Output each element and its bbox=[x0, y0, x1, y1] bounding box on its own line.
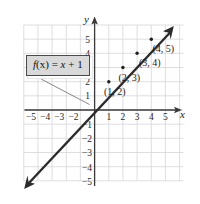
annotation-leader-line bbox=[41, 79, 90, 105]
point-label-2-3: (2, 3) bbox=[119, 72, 141, 84]
y-tick-label--2: −2 bbox=[82, 134, 92, 144]
point-label-3-4: (3, 4) bbox=[139, 57, 161, 69]
y-tick-label-2: 2 bbox=[85, 77, 90, 87]
point-label-1-2: (1, 2) bbox=[104, 86, 126, 98]
x-tick-label-3: 3 bbox=[135, 112, 140, 122]
y-tick-label--4: −4 bbox=[82, 163, 92, 173]
y-tick-label--5: −5 bbox=[82, 177, 92, 187]
y-axis bbox=[91, 17, 98, 187]
x-axis-label: x bbox=[179, 108, 185, 120]
x-tick-label--2: −2 bbox=[68, 112, 78, 122]
y-tick-label-1: 1 bbox=[85, 91, 90, 101]
point-marker-1-2 bbox=[107, 80, 110, 83]
x-tick-label-4: 4 bbox=[149, 112, 154, 122]
point-marker-3-4 bbox=[135, 52, 138, 55]
point-marker-4-5 bbox=[150, 38, 153, 41]
x-tick-label--4: −4 bbox=[40, 112, 50, 122]
fn-constant: + 1 bbox=[66, 58, 83, 70]
y-tick-label-5: 5 bbox=[85, 35, 90, 45]
x-tick-label-1: 1 bbox=[106, 112, 111, 122]
y-tick-label--1: −1 bbox=[82, 120, 92, 130]
graph-figure: x y −5 −4 −3 −2 1 2 3 4 5 5 4 3 2 1 −1 −… bbox=[0, 0, 200, 204]
coordinate-plane: x y −5 −4 −3 −2 1 2 3 4 5 5 4 3 2 1 −1 −… bbox=[0, 0, 200, 204]
fn-argument: (x) bbox=[36, 58, 49, 70]
point-label-4-5: (4, 5) bbox=[153, 43, 175, 55]
x-tick-label--3: −3 bbox=[54, 112, 64, 122]
x-tick-label--5: −5 bbox=[26, 112, 36, 122]
x-tick-label-5: 5 bbox=[163, 112, 168, 122]
y-tick-label--3: −3 bbox=[82, 148, 92, 158]
x-tick-label-2: 2 bbox=[121, 112, 126, 122]
y-axis-label: y bbox=[83, 13, 89, 25]
function-equation-label: f(x) = x + 1 bbox=[26, 55, 90, 76]
point-marker-2-3 bbox=[121, 66, 124, 69]
fn-equals: = bbox=[49, 58, 61, 70]
